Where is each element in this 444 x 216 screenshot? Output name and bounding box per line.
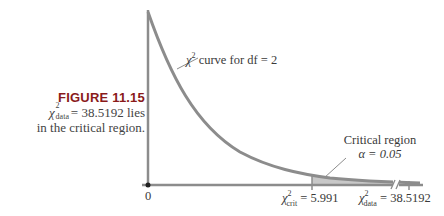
critical-region-leader xyxy=(324,158,346,178)
crit-label: χ2crit = 5.991 xyxy=(281,189,339,208)
alpha-label: α = 0.05 xyxy=(358,147,401,161)
curve-label: χ2 curve for df = 2 xyxy=(185,51,277,67)
critical-region-label: Critical region xyxy=(344,133,417,147)
origin-point xyxy=(146,183,151,188)
data-label: χ2data = 38.5192 xyxy=(358,189,431,208)
chi-square-chart: χ2 curve for df = 2 Critical region α = … xyxy=(0,0,444,216)
zero-label: 0 xyxy=(145,189,151,203)
